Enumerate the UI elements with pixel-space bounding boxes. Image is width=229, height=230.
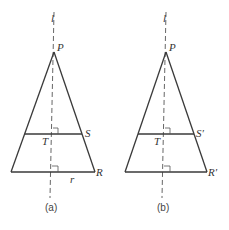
side-right — [166, 52, 207, 172]
side-right — [54, 52, 95, 172]
label-r-prime: R′ — [207, 166, 218, 178]
side-left — [11, 52, 54, 172]
label-t: T — [154, 135, 161, 147]
label-l: l — [163, 12, 166, 24]
label-s-prime: S′ — [196, 127, 205, 139]
caption-a: (a) — [45, 202, 57, 213]
axis-line-l — [50, 12, 54, 198]
right-angle-mark-upper — [53, 128, 58, 134]
label-segment-r: r — [70, 173, 75, 185]
figure-a: l P T S R r (a) — [11, 12, 103, 213]
label-p: P — [168, 41, 176, 53]
right-angle-mark-lower — [52, 166, 58, 172]
figure-b: l P T S′ R′ (b) — [125, 12, 218, 213]
label-l: l — [51, 12, 54, 24]
side-left — [125, 52, 166, 172]
label-p: P — [56, 41, 64, 53]
label-t: T — [42, 135, 49, 147]
right-angle-mark-lower — [164, 166, 170, 172]
label-r: R — [95, 166, 103, 178]
right-angle-mark-upper — [165, 128, 170, 134]
caption-b: (b) — [157, 202, 169, 213]
label-s: S — [85, 127, 91, 139]
axis-line-l — [162, 12, 166, 198]
geometry-figure: l P T S R r (a) l P T S′ R′ (b) — [0, 0, 229, 230]
